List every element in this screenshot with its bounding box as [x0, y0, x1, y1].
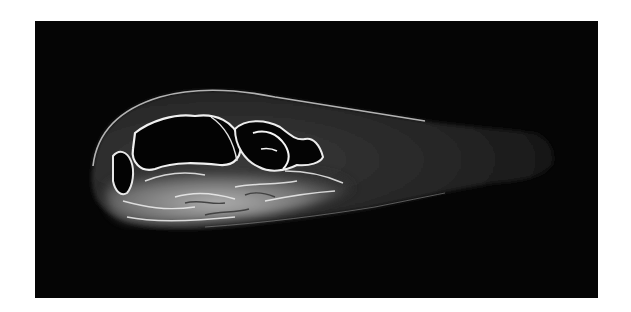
cavity-large — [133, 115, 241, 169]
scan-image — [35, 21, 598, 298]
cavity-left — [113, 152, 133, 194]
scan-image-frame — [35, 21, 598, 298]
